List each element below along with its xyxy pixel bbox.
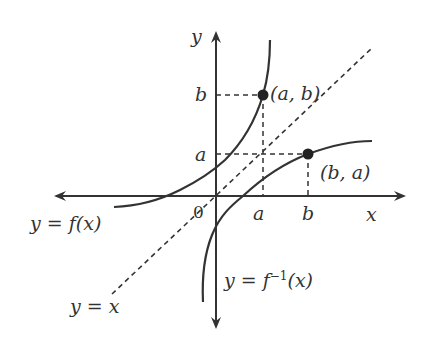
origin-label: 0	[193, 204, 204, 221]
point-a-b-label: (a, b)	[270, 84, 320, 103]
x-tick-a: a	[253, 204, 264, 223]
point-b-a-label: (b, a)	[320, 163, 370, 182]
f-inverse-label-tail: (x)	[287, 269, 313, 291]
y-tick-b: b	[195, 85, 207, 104]
y-axis-label: y	[191, 27, 202, 46]
f-inverse-curve-label: y = f−1(x)	[224, 270, 313, 290]
identity-line-label: y = x	[70, 297, 119, 316]
y-tick-a: a	[195, 145, 206, 164]
point-a-b	[258, 90, 269, 101]
f-inverse-label-sup: −1	[270, 269, 288, 283]
inverse-function-diagram: y x 0 b a a b (a, b) (b, a) y = f(x) y =…	[0, 0, 431, 347]
x-tick-b: b	[302, 204, 314, 223]
f-inverse-label-main: y = f	[224, 269, 270, 291]
point-b-a	[303, 149, 314, 160]
f-curve-label: y = f(x)	[30, 214, 101, 233]
x-axis-label: x	[366, 205, 377, 224]
f-curve	[114, 40, 270, 207]
